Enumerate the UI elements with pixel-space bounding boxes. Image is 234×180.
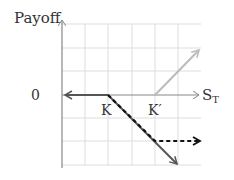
origin-label: 0 (31, 88, 40, 102)
x-axis-label-sub: T (212, 94, 219, 105)
long-call-line (155, 50, 199, 95)
x-axis-label-main: S (202, 86, 212, 104)
strike-k-prime-label: K′ (148, 103, 162, 117)
strike-k-label: K (101, 103, 111, 117)
y-axis-label: Payoff (14, 11, 61, 26)
x-axis-label: ST (202, 88, 219, 105)
